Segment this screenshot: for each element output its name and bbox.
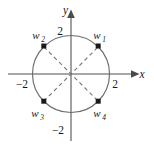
x-axis-label: x xyxy=(138,68,145,80)
tick-label-y-positive-2: 2 xyxy=(57,25,63,37)
point-label-w4-base: w xyxy=(93,107,101,119)
y-axis-arrow-icon xyxy=(67,10,75,19)
point-label-w4-subscript: 4 xyxy=(102,113,106,122)
point-label-w3: w 3 xyxy=(31,107,44,122)
x-axis-arrow-icon xyxy=(131,70,140,78)
point-label-w2-subscript: 2 xyxy=(41,35,45,44)
y-axis-group xyxy=(67,10,75,142)
point-label-w2-base: w xyxy=(32,29,40,41)
coordinate-plane-svg: x y −2 2 2 −2 w 1 w 2 w 3 w 4 xyxy=(0,0,154,147)
point-label-w2: w 2 xyxy=(32,29,45,44)
y-axis-label: y xyxy=(62,4,69,17)
point-marker-w2 xyxy=(41,44,46,49)
point-label-w4: w 4 xyxy=(93,107,106,122)
point-label-w3-base: w xyxy=(31,107,39,119)
tick-label-x-negative-2: −2 xyxy=(16,78,28,90)
point-label-w3-subscript: 3 xyxy=(39,113,44,122)
point-label-w1: w 1 xyxy=(93,29,106,44)
tick-label-x-positive-2: 2 xyxy=(112,78,118,90)
point-marker-w4 xyxy=(96,99,101,104)
x-axis-group xyxy=(8,70,140,78)
math-figure-unit-circle: x y −2 2 2 −2 w 1 w 2 w 3 w 4 xyxy=(0,0,154,147)
tick-label-y-negative-2: −2 xyxy=(52,124,64,136)
point-marker-w3 xyxy=(41,99,46,104)
point-label-w1-base: w xyxy=(93,29,101,41)
point-label-w1-subscript: 1 xyxy=(102,35,106,44)
point-marker-w1 xyxy=(96,44,101,49)
